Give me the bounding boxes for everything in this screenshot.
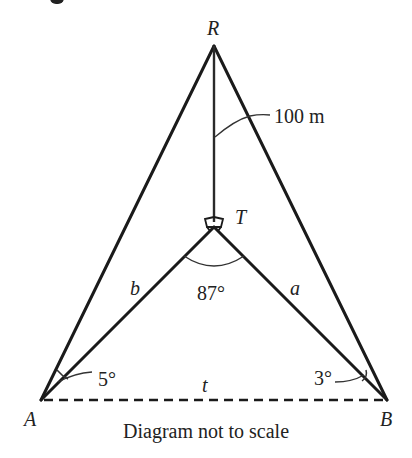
- edge-BT: [214, 227, 387, 400]
- geometry-diagram: R T A B b a t 100 m 87° 5° 3° Diagram no…: [0, 0, 412, 458]
- length-label-100m: 100 m: [274, 105, 325, 127]
- angle-leader-3deg: [335, 375, 364, 382]
- point-label-T: T: [235, 206, 248, 228]
- point-label-A: A: [22, 408, 37, 430]
- edge-label-a: a: [290, 277, 300, 299]
- point-label-R: R: [206, 17, 219, 39]
- point-label-B: B: [380, 408, 392, 430]
- angle-arc-ATB: [184, 256, 244, 266]
- angle-label-3: 3°: [314, 367, 332, 389]
- right-angle-marker-left: [205, 217, 214, 227]
- right-angle-marker-right: [214, 217, 223, 227]
- length-leader-100m: [215, 115, 270, 137]
- edge-AR: [41, 46, 214, 400]
- edge-AT: [41, 227, 214, 400]
- diagram-caption: Diagram not to scale: [123, 420, 289, 443]
- angle-label-5: 5°: [98, 368, 116, 390]
- angle-label-87: 87°: [197, 282, 225, 304]
- edge-label-t: t: [202, 374, 208, 396]
- edge-label-b: b: [130, 277, 140, 299]
